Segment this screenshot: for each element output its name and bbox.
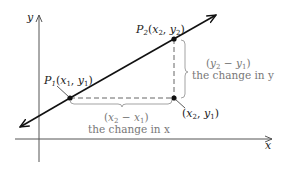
point-p2 bbox=[171, 36, 176, 41]
p3-label: (x2, y1) bbox=[182, 107, 219, 121]
vertical-change-caption: the change in y bbox=[192, 69, 274, 81]
p2-label: P2(x2, y2) bbox=[135, 23, 185, 37]
horizontal-brace bbox=[70, 100, 172, 107]
secant-line-back bbox=[20, 98, 70, 127]
horizontal-change-caption: the change in x bbox=[88, 123, 170, 135]
vertical-brace bbox=[181, 40, 188, 98]
x-axis-label: x bbox=[265, 139, 272, 152]
y-axis-label: y bbox=[26, 11, 34, 24]
slope-diagram: y x P1(x1, y1) P2(x2, y2) (x2, y1) (x2 −… bbox=[0, 0, 282, 172]
p1-label: P1(x1, y1) bbox=[43, 74, 93, 88]
